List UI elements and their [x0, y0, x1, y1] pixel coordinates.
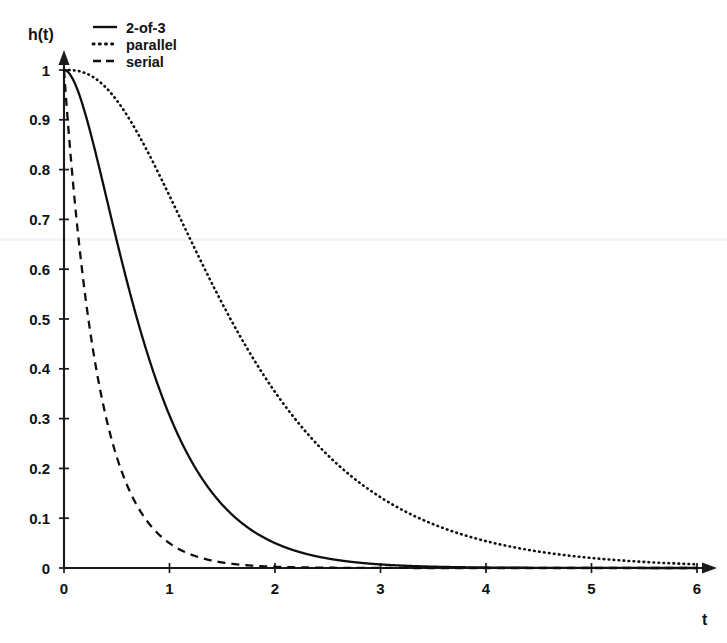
legend-label: parallel	[126, 37, 177, 53]
y-tick-label: 0.2	[29, 460, 50, 477]
y-tick-label: 1	[42, 62, 50, 79]
x-tick-label: 6	[693, 580, 701, 597]
reliability-function-plot: h(t) t 012345600.10.20.30.40.50.60.70.80…	[0, 0, 727, 643]
x-tick-label: 0	[60, 580, 68, 597]
y-tick-label: 0.1	[29, 510, 50, 527]
x-tick-label: 2	[271, 580, 279, 597]
x-tick-label: 3	[376, 580, 384, 597]
x-axis-title: t	[702, 611, 708, 628]
chart-figure: h(t) t 012345600.10.20.30.40.50.60.70.80…	[0, 0, 727, 643]
y-tick-label: 0.9	[29, 111, 50, 128]
y-tick-label: 0.5	[29, 311, 50, 328]
y-tick-label: 0.3	[29, 410, 50, 427]
legend-label: serial	[126, 54, 164, 70]
scan-artifact-line	[0, 238, 727, 241]
plot-background	[0, 0, 727, 643]
x-tick-label: 5	[587, 580, 595, 597]
x-tick-label: 4	[482, 580, 491, 597]
x-tick-label: 1	[165, 580, 173, 597]
y-tick-label: 0.6	[29, 261, 50, 278]
y-tick-label: 0.8	[29, 161, 50, 178]
y-tick-label: 0	[42, 560, 50, 577]
y-tick-label: 0.7	[29, 211, 50, 228]
y-axis-title: h(t)	[28, 26, 54, 43]
legend-label: 2-of-3	[126, 20, 165, 36]
y-tick-label: 0.4	[29, 360, 51, 377]
